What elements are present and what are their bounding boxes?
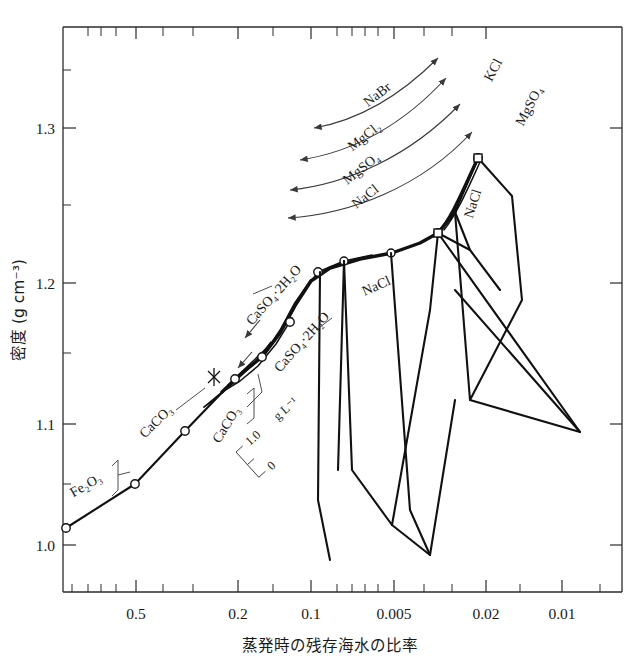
x-tick-label: 0.01 [548, 605, 575, 622]
data-point [286, 318, 294, 326]
x-axis-title: 蒸発時の残存海水の比率 [242, 637, 418, 655]
data-point [131, 480, 139, 488]
chart-root: 1.0 1.1 1.2 1.3 密度 (g cm⁻³) [0, 0, 641, 662]
data-point [258, 353, 266, 361]
data-point [181, 427, 189, 435]
x-tick-label: 0.02 [472, 605, 499, 622]
y-tick-label: 1.2 [36, 275, 55, 292]
y-tick-label: 1.3 [36, 120, 56, 137]
x-tick-label: 0.005 [377, 605, 412, 622]
y-axis-title: 密度 (g cm⁻³) [10, 259, 28, 361]
evaporation-density-chart: 1.0 1.1 1.2 1.3 密度 (g cm⁻³) [0, 0, 641, 662]
y-tick-label: 1.0 [36, 537, 56, 554]
y-tick-label: 1.1 [36, 416, 55, 433]
x-tick-label: 0.1 [301, 605, 320, 622]
x-tick-label: 0.5 [126, 605, 146, 622]
x-tick-label: 0.2 [228, 605, 247, 622]
data-point [62, 524, 70, 532]
data-point [231, 375, 239, 383]
